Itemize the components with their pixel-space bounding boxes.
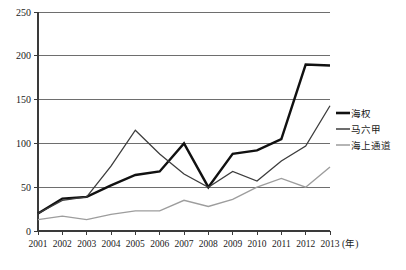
x-tick-label: 2013 <box>321 239 340 249</box>
x-tick-label: 2004 <box>102 239 121 249</box>
y-tick-label: 150 <box>16 94 31 105</box>
chart-legend: 海权马六甲海上通道 <box>336 108 391 151</box>
x-tick-label: 2003 <box>77 239 96 249</box>
gridlines-group <box>38 12 330 187</box>
line-chart: 050100150200250 200120022003200420052006… <box>0 0 406 270</box>
y-tick-label: 0 <box>26 226 31 237</box>
y-tick-label: 50 <box>21 182 31 193</box>
chart-canvas: 050100150200250 200120022003200420052006… <box>0 0 406 270</box>
data-series-group <box>38 65 330 220</box>
x-tick-label: 2007 <box>175 239 194 249</box>
series-line <box>38 167 330 220</box>
x-tick-label: 2010 <box>248 239 267 249</box>
x-tick-label: 2009 <box>223 239 242 249</box>
legend-item-label: 海权 <box>351 108 371 119</box>
x-tick-label: 2002 <box>53 239 72 249</box>
x-tick-label: 2001 <box>29 239 48 249</box>
y-tick-label: 250 <box>16 7 31 18</box>
x-tick-label: 2011 <box>272 239 291 249</box>
series-line <box>38 65 330 214</box>
x-tick-label: 2012 <box>296 239 315 249</box>
x-tick-label: 2005 <box>126 239 145 249</box>
x-tick-label: 2008 <box>199 239 218 249</box>
x-axis-tick-labels: 2001200220032004200520062007200820092010… <box>29 238 359 250</box>
x-axis-tickmarks <box>38 231 330 235</box>
x-axis-unit-label: (年) <box>342 238 358 250</box>
legend-item-label: 海上通道 <box>351 140 391 151</box>
legend-item-label: 马六甲 <box>351 124 381 135</box>
y-axis-tick-labels: 050100150200250 <box>16 7 38 237</box>
x-tick-label: 2006 <box>150 239 169 249</box>
y-tick-label: 200 <box>16 50 31 61</box>
y-tick-label: 100 <box>16 138 31 149</box>
